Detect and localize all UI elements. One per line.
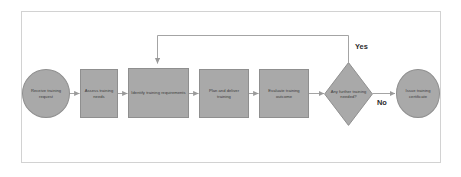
- node-issue-training-certificate[interactable]: Issue training certificate: [396, 69, 440, 118]
- node-label: Any further training needed?: [324, 89, 373, 100]
- node-label: Assess training needs: [81, 88, 117, 99]
- flowchart-canvas: Receive training request Assess training…: [0, 0, 461, 177]
- edge-label-yes: Yes: [355, 42, 368, 51]
- node-assess-training-needs[interactable]: Assess training needs: [80, 69, 118, 118]
- node-label: Identify training requirements: [129, 90, 188, 95]
- node-label: Issue training certificate: [397, 88, 439, 99]
- node-identify-training-requirements[interactable]: Identify training requirements: [128, 68, 189, 118]
- node-label: Plan and deliver training: [200, 88, 248, 99]
- node-label: Evaluate training outcome: [260, 88, 308, 99]
- node-plan-and-deliver-training[interactable]: Plan and deliver training: [199, 69, 249, 118]
- node-evaluate-training-outcome[interactable]: Evaluate training outcome: [259, 69, 309, 118]
- node-any-further-training-needed[interactable]: Any further training needed?: [324, 62, 373, 126]
- node-label: Receive training request: [23, 88, 69, 99]
- connector-decision-loop-to-identify: [158, 36, 349, 64]
- node-receive-training-request[interactable]: Receive training request: [22, 69, 70, 118]
- edge-label-no: No: [377, 98, 387, 107]
